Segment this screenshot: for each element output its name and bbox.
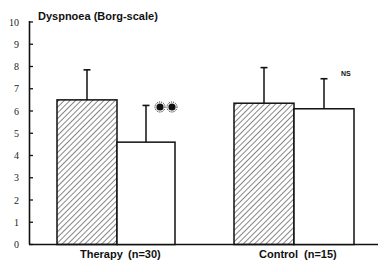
control-n-label: (n=15) xyxy=(304,248,337,260)
therapy-label: Therapy xyxy=(80,248,124,260)
y-tick-label: 6 xyxy=(14,106,19,117)
y-axis: 012345678910 xyxy=(9,17,33,251)
y-tick-label: 9 xyxy=(14,39,19,50)
y-tick-label: 4 xyxy=(14,150,19,161)
y-tick-label: 8 xyxy=(14,61,19,72)
control-open-bar xyxy=(294,109,354,245)
y-tick-label: 0 xyxy=(14,239,19,250)
y-tick-label: 5 xyxy=(14,128,19,139)
bar-chart: Dyspnoea (Borg-scale) 012345678910 NS Th… xyxy=(0,0,390,272)
significance-stars xyxy=(155,102,177,112)
bars xyxy=(57,68,354,245)
y-tick-label: 1 xyxy=(14,217,19,228)
control-hatched-bar xyxy=(234,103,294,244)
y-tick-label: 10 xyxy=(9,17,19,28)
therapy-open-bar xyxy=(117,142,175,244)
chart-title: Dyspnoea (Borg-scale) xyxy=(38,10,158,22)
control-label: Control xyxy=(259,248,298,260)
y-tick-label: 7 xyxy=(14,83,19,94)
therapy-hatched-bar xyxy=(57,100,117,245)
ns-annotation: NS xyxy=(341,70,351,77)
y-tick-label: 2 xyxy=(14,195,19,206)
therapy-n-label: (n=30) xyxy=(128,248,161,260)
y-tick-label: 3 xyxy=(14,172,19,183)
